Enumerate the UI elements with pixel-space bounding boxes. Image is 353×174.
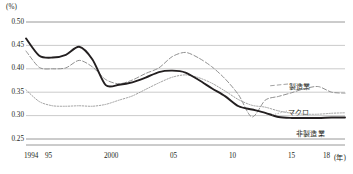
leader-manufacturing [268,84,288,86]
line-chart: (%) 0.50 0.45 0.40 0.35 0.30 0.25 1994 9… [0,0,353,174]
series-line-非製造業 [26,75,345,114]
chart-plot-area [0,0,353,174]
series-line-製造業 [26,51,345,117]
